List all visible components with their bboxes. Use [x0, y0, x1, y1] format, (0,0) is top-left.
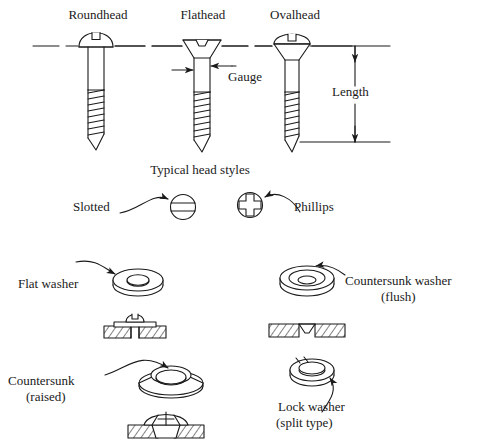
- countersunk-raised-cross-section: [128, 412, 204, 438]
- flat-washer-leader-arrow: [76, 261, 115, 274]
- label-countersunk-raised-line2: (raised): [26, 390, 66, 404]
- label-phillips: Phillips: [294, 200, 334, 214]
- countersunk-raised-washer-drawing: [139, 366, 203, 398]
- phillips-head-icon: [238, 193, 263, 218]
- countersunk-flush-cross-section: [269, 324, 345, 337]
- label-flathead: Flathead: [158, 8, 248, 22]
- label-countersunk-flush-line2: (flush): [381, 290, 416, 304]
- label-countersunk-flush-line1: Countersunk washer: [345, 274, 452, 288]
- flat-washer-drawing: [113, 269, 163, 296]
- label-flat-washer: Flat washer: [18, 277, 78, 291]
- label-gauge: Gauge: [228, 70, 262, 84]
- label-ovalhead: Ovalhead: [250, 8, 340, 22]
- gauge-dimension-arrows: [172, 66, 236, 70]
- label-length: Length: [332, 85, 369, 99]
- label-roundhead: Roundhead: [53, 8, 143, 22]
- ovalhead-threads: [285, 92, 299, 140]
- flathead-screw-drawing: [115, 40, 272, 152]
- slotted-leader-arrow: [120, 197, 168, 213]
- slotted-head-icon: [171, 195, 196, 220]
- label-countersunk-raised-line1: Countersunk: [8, 374, 74, 388]
- countersunk-flush-washer-drawing: [280, 266, 334, 296]
- label-lock-washer-line1: Lock washer: [278, 400, 345, 414]
- roundhead-screw-drawing: [33, 33, 182, 151]
- screw-and-washer-diagram: Roundhead Flathead Ovalhead Gauge Length…: [0, 0, 477, 446]
- label-lock-washer-line2: (split type): [276, 416, 333, 430]
- roundhead-threads: [88, 90, 104, 138]
- label-slotted: Slotted: [73, 200, 110, 214]
- lock-washer-drawing: [290, 357, 334, 386]
- flathead-threads: [194, 92, 210, 140]
- heading-typical-head-styles: Typical head styles: [120, 163, 280, 177]
- flat-washer-cross-section: [104, 314, 166, 338]
